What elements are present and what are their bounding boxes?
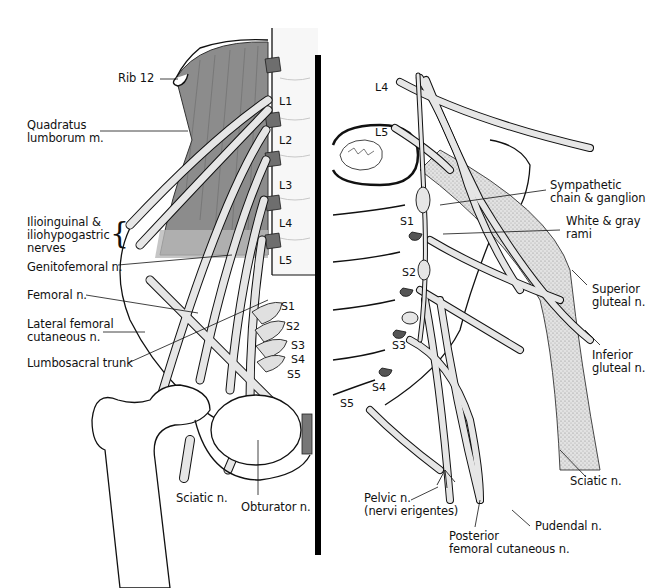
label-rib-12: Rib 12 — [118, 72, 154, 85]
level-l5: L5 — [279, 255, 292, 267]
label-superior-gluteal-line2: gluteal n. — [592, 296, 645, 309]
label-femoral: Femoral n. — [27, 289, 87, 302]
label-genitofemoral: Genitofemoral n. — [27, 261, 122, 274]
label-lateral-femoral-line2: cutaneous n. — [27, 331, 100, 344]
level-s5: S5 — [287, 369, 301, 381]
level-right-s5: S5 — [340, 398, 354, 410]
level-s1: S1 — [281, 301, 295, 313]
right-panel-drawing — [333, 75, 600, 500]
brace-icon: { — [110, 218, 129, 248]
label-lumbosacral-trunk: Lumbosacral trunk — [27, 357, 133, 370]
level-l2: L2 — [279, 135, 292, 147]
level-l3: L3 — [279, 180, 292, 192]
level-s4: S4 — [291, 354, 305, 366]
panel-divider — [315, 55, 321, 555]
label-sympathetic-line2: chain & ganglion — [550, 192, 645, 205]
level-l1: L1 — [279, 96, 292, 108]
label-ilioinguinal-line3: nerves — [27, 242, 65, 255]
level-right-s4: S4 — [372, 382, 386, 394]
label-quadratus-line2: lumborum m. — [27, 132, 104, 145]
level-s2: S2 — [286, 321, 300, 333]
label-inferior-gluteal-line2: gluteal n. — [592, 362, 645, 375]
label-sciatic-left: Sciatic n. — [176, 492, 228, 505]
level-right-l5: L5 — [375, 127, 388, 139]
label-pudendal: Pudendal n. — [535, 520, 602, 533]
label-posterior-femoral-line2: femoral cutaneous n. — [449, 543, 569, 556]
plexus-illustration — [0, 0, 663, 588]
label-obturator: Obturator n. — [241, 501, 311, 514]
label-sciatic-right: Sciatic n. — [570, 475, 622, 488]
level-right-s2: S2 — [402, 267, 416, 279]
label-rami-line2: rami — [566, 228, 592, 241]
level-right-s1: S1 — [400, 216, 414, 228]
level-right-s3: S3 — [392, 340, 406, 352]
label-pelvic-line2: (nervi erigentes) — [364, 505, 458, 518]
level-s3: S3 — [291, 340, 305, 352]
level-l4: L4 — [279, 218, 292, 230]
level-right-l4: L4 — [375, 82, 388, 94]
